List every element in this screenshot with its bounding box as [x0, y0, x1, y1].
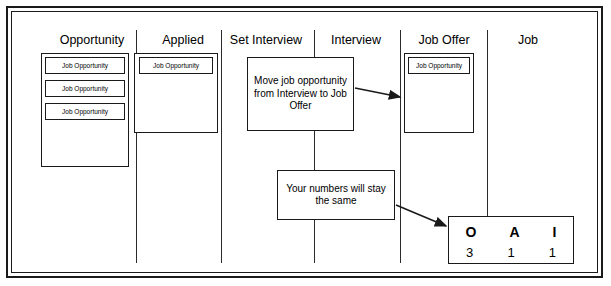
score-value-a: 1: [507, 245, 514, 260]
joboffer-card-1[interactable]: Job Opportunity: [408, 57, 470, 74]
column-title-job: Job: [508, 33, 548, 47]
column-title-job-offer: Job Offer: [408, 33, 480, 47]
column-title-opportunity: Opportunity: [44, 33, 140, 47]
applied-card-1[interactable]: Job Opportunity: [139, 57, 213, 74]
column-title-set-interview: Set Interview: [220, 33, 312, 47]
opportunity-card-3[interactable]: Job Opportunity: [45, 103, 125, 120]
note-move-job: Move job opportunity from Interview to J…: [247, 57, 354, 131]
column-title-interview: Interview: [318, 33, 394, 47]
score-letter-a: A: [509, 224, 519, 240]
score-letters-row: O A I: [449, 221, 573, 242]
score-value-i: 1: [549, 245, 556, 260]
column-title-applied: Applied: [144, 33, 222, 47]
column-divider-4: [400, 30, 401, 263]
column-divider-2: [221, 30, 222, 263]
score-letter-o: O: [466, 224, 477, 240]
score-values-row: 3 1 1: [449, 242, 573, 262]
note-numbers: Your numbers will stay the same: [277, 170, 395, 220]
score-value-o: 3: [466, 245, 473, 260]
score-letter-i: I: [553, 224, 557, 240]
diagram-canvas: Opportunity Applied Set Interview Interv…: [0, 0, 611, 286]
opportunity-card-2[interactable]: Job Opportunity: [45, 80, 125, 97]
score-box: O A I 3 1 1: [448, 216, 574, 264]
opportunity-card-1[interactable]: Job Opportunity: [45, 57, 125, 74]
